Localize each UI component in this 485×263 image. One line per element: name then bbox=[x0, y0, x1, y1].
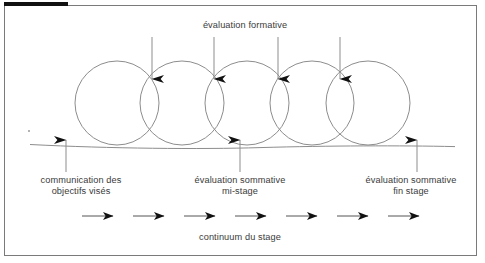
label-sommative-mi-line2: mi-stage bbox=[160, 186, 320, 197]
cycle-circle-1 bbox=[75, 61, 159, 145]
label-communication-line2: objectifs visés bbox=[6, 186, 156, 197]
label-evaluation-formative: évaluation formative bbox=[160, 20, 330, 31]
label-sommative-fin-line1: évaluation sommative bbox=[366, 175, 457, 185]
label-communication-line1: communication des bbox=[41, 175, 122, 185]
circle-group bbox=[75, 61, 410, 145]
label-sommative-fin-line2: fin stage bbox=[336, 186, 485, 197]
label-continuum-du-stage: continuum du stage bbox=[160, 232, 320, 243]
label-sommative-mi-line1: évaluation sommative bbox=[195, 175, 286, 185]
cycle-circle-2 bbox=[140, 61, 224, 145]
diagram-canvas bbox=[0, 0, 485, 263]
formative-arrow-group bbox=[152, 37, 340, 79]
label-sommative-mi-stage: évaluation sommative mi-stage bbox=[160, 175, 320, 198]
label-sommative-fin-stage: évaluation sommative fin stage bbox=[336, 175, 485, 198]
cycle-circle-4 bbox=[270, 61, 354, 145]
cycle-circle-5 bbox=[326, 61, 410, 145]
cycle-circle-3 bbox=[205, 61, 289, 145]
label-continuum-text: continuum du stage bbox=[199, 232, 281, 242]
label-evaluation-formative-text: évaluation formative bbox=[203, 20, 287, 30]
figure-root: évaluation formative communication des o… bbox=[0, 0, 485, 263]
label-communication-objectifs: communication des objectifs visés bbox=[6, 175, 156, 198]
